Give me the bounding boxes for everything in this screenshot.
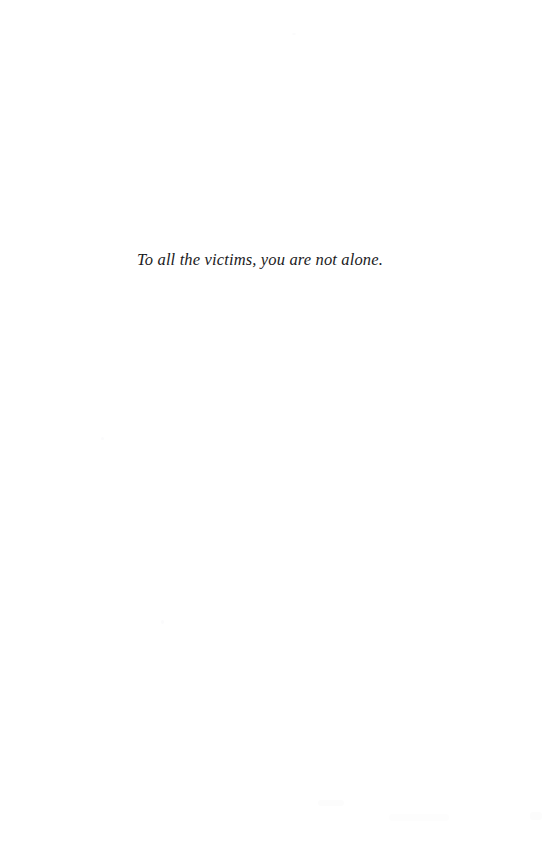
book-page: To all the victims, you are not alone. (0, 0, 546, 857)
scan-speckle (318, 800, 344, 806)
scan-speckle (530, 812, 542, 820)
dedication-block: To all the victims, you are not alone. (0, 248, 546, 272)
scan-speckle (161, 620, 164, 624)
scan-speckle (101, 437, 104, 440)
scan-speckle (389, 814, 449, 821)
dedication-text: To all the victims, you are not alone. (137, 248, 383, 272)
scan-speckle (292, 33, 296, 35)
